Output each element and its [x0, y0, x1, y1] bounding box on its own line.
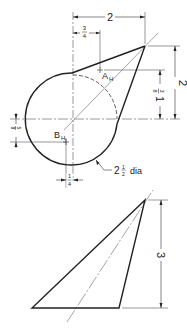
point-A-label: A [102, 71, 108, 81]
dim-A-height-num: 3 [159, 89, 165, 92]
circle-dia-suffix: dia [130, 166, 142, 176]
arrow-icon [160, 200, 163, 205]
dim-B-vertical-den: 8 [10, 127, 16, 130]
arrow-icon [15, 142, 18, 147]
top-view: 2 3 4 2 1 3 8 5 8 [10, 11, 187, 188]
circle-dia-num: 1 [122, 164, 125, 170]
dim-width-label: 2 [107, 11, 113, 23]
dim-height-label: 2 [177, 80, 187, 86]
dim-A-height-den: 8 [152, 89, 158, 92]
dim-B-horizontal-num: 1 [68, 173, 71, 179]
cone-outline-top [25, 46, 145, 165]
orthographic-drawing: 2 3 4 2 1 3 8 5 8 [0, 0, 187, 336]
front-axis-line [67, 190, 153, 322]
arrow-icon [159, 70, 162, 75]
arrow-icon [15, 114, 18, 119]
dim-A-height-whole: 1 [154, 96, 165, 102]
arrow-icon [159, 114, 162, 119]
circle-dia-whole: 2 [114, 165, 120, 176]
point-B-subscript: H [61, 135, 65, 141]
arrow-icon [160, 303, 163, 308]
front-view: 3 [32, 190, 168, 322]
dim-B-horizontal-den: 4 [68, 181, 71, 187]
point-B-label: B [54, 130, 60, 140]
arrow-icon [174, 114, 177, 119]
point-A-subscript: H [109, 76, 113, 82]
arrow-icon [73, 16, 78, 19]
arrow-icon [61, 179, 66, 182]
circle-dia-den: 2 [122, 171, 125, 177]
arrow-icon [96, 160, 100, 165]
arrow-icon [73, 179, 78, 182]
arrow-icon [140, 16, 145, 19]
arrow-icon [96, 32, 100, 34]
arrow-icon [73, 32, 77, 34]
cone-outline-front [32, 200, 145, 308]
dim-front-height-label: 3 [155, 252, 167, 258]
diameter-leader [96, 160, 112, 170]
arrow-icon [174, 46, 177, 51]
